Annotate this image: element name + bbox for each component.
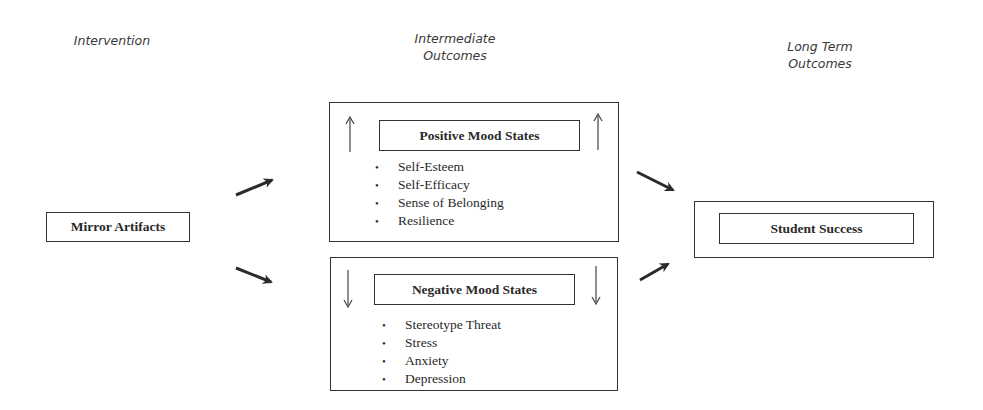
decrease-arrow-left-icon	[344, 270, 352, 307]
decrease-arrow-right-icon	[592, 266, 600, 304]
increase-arrow-right-icon	[594, 114, 602, 150]
arrow-to-negative-icon	[236, 268, 271, 282]
connector-arrows	[0, 0, 983, 410]
increase-arrow-left-icon	[346, 117, 354, 152]
arrow-positive-to-success-icon	[637, 172, 673, 190]
arrow-to-positive-icon	[236, 180, 272, 195]
arrow-negative-to-success-icon	[640, 264, 668, 280]
